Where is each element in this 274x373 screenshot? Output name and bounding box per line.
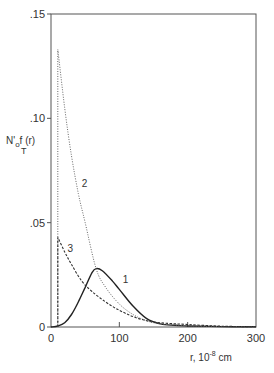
axis-tick-labels: 0100200300.15.10.050 xyxy=(30,8,265,344)
curve-2 xyxy=(58,50,256,328)
y-tick-label: .15 xyxy=(30,8,45,20)
curve-label-1: 1 xyxy=(123,274,129,285)
x-axis-label: r, 10-8 cm xyxy=(190,350,232,363)
ylabel-main: N' xyxy=(6,135,15,146)
x-tick-label: 0 xyxy=(48,332,54,344)
x-tick-label: 200 xyxy=(178,332,196,344)
xlabel-unit: cm xyxy=(216,352,232,363)
y-tick-label: .05 xyxy=(30,217,45,229)
y-tick-label: 0 xyxy=(39,321,45,333)
x-tick-label: 100 xyxy=(110,332,128,344)
x-tick-label: 300 xyxy=(247,332,265,344)
xlabel-prefix: r, 10 xyxy=(190,352,209,363)
ylabel-f: f xyxy=(20,135,23,146)
ylabel-T: T xyxy=(21,147,27,156)
plot-frame xyxy=(51,14,256,327)
curve-label-3: 3 xyxy=(67,243,73,254)
y-tick-label: .10 xyxy=(30,112,45,124)
chart-plot: 0100200300.15.10.050 123 xyxy=(0,0,274,373)
ylabel-paren: (r) xyxy=(25,135,35,146)
axis-ticks xyxy=(47,14,188,327)
y-axis-label: N'of (r)T xyxy=(6,136,35,149)
curve-label-2: 2 xyxy=(82,178,88,189)
curve-1 xyxy=(51,268,256,327)
